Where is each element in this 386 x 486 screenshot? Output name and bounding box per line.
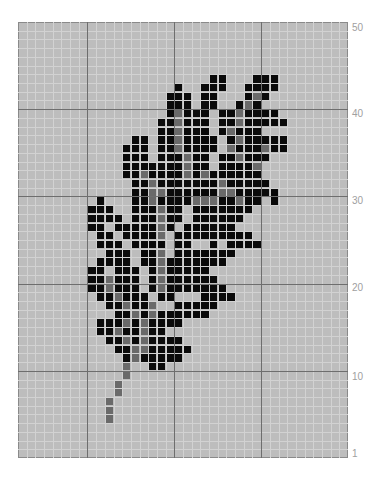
filled-cell [88,276,95,283]
filled-cell [201,224,208,231]
vein-cell [253,93,260,100]
filled-cell [245,128,252,135]
filled-cell [132,319,139,326]
filled-cell [97,206,104,213]
filled-cell [123,154,130,161]
filled-cell [158,180,165,187]
filled-cell [115,302,122,309]
filled-cell [149,163,156,170]
filled-cell [201,258,208,265]
vein-cell [201,171,208,178]
filled-cell [201,311,208,318]
filled-cell [210,101,217,108]
filled-cell [262,189,269,196]
filled-cell [271,84,278,91]
filled-cell [88,224,95,231]
filled-cell [123,311,130,318]
filled-cell [175,215,182,222]
filled-cell [167,119,174,126]
filled-cell [253,241,260,248]
filled-cell [236,215,243,222]
filled-cell [167,346,174,353]
filled-cell [106,232,113,239]
filled-cell [227,154,234,161]
filled-cell [123,328,130,335]
filled-cell [175,276,182,283]
filled-cell [236,241,243,248]
filled-cell [193,285,200,292]
vein-cell [132,311,139,318]
vein-cell [158,206,165,213]
filled-cell [227,250,234,257]
filled-cell [271,75,278,82]
vein-cell [236,154,243,161]
filled-cell [201,215,208,222]
filled-cell [193,250,200,257]
filled-cell [132,224,139,231]
filled-cell [141,224,148,231]
filled-cell [262,75,269,82]
filled-cell [158,197,165,204]
filled-cell [201,154,208,161]
filled-cell [219,128,226,135]
filled-cell [184,311,191,318]
filled-cell [193,258,200,265]
filled-cell [236,101,243,108]
vein-cell [141,337,148,344]
filled-cell [149,232,156,239]
filled-cell [123,285,130,292]
filled-cell [141,250,148,257]
filled-cell [132,136,139,143]
filled-cell [245,136,252,143]
vein-cell [149,311,156,318]
filled-cell [141,302,148,309]
filled-cell [132,328,139,335]
filled-cell [132,232,139,239]
filled-cell [132,189,139,196]
filled-cell [201,189,208,196]
filled-cell [227,215,234,222]
filled-cell [149,276,156,283]
filled-cell [175,232,182,239]
filled-cell [201,128,208,135]
vein-cell [149,180,156,187]
filled-cell [158,363,165,370]
filled-cell [193,110,200,117]
filled-cell [97,224,104,231]
filled-cell [227,171,234,178]
filled-cell [167,145,174,152]
filled-cell [97,197,104,204]
row-label-40: 40 [352,109,363,119]
filled-cell [158,293,165,300]
filled-cell [167,319,174,326]
filled-cell [262,119,269,126]
filled-cell [219,119,226,126]
filled-cell [280,119,287,126]
filled-cell [175,84,182,91]
filled-cell [175,197,182,204]
filled-cell [201,250,208,257]
vein-cell [158,215,165,222]
filled-cell [132,197,139,204]
filled-cell [149,363,156,370]
filled-cell [123,354,130,361]
filled-cell [106,258,113,265]
vein-cell [106,398,113,405]
filled-cell [219,110,226,117]
filled-cell [158,119,165,126]
filled-cell [175,163,182,170]
filled-cell [106,250,113,257]
filled-cell [167,311,174,318]
filled-cell [149,206,156,213]
filled-cell [132,206,139,213]
vein-cell [219,189,226,196]
filled-cell [158,354,165,361]
vein-cell [175,119,182,126]
filled-cell [175,101,182,108]
filled-cell [227,110,234,117]
vein-cell [123,372,130,379]
vein-cell [236,197,243,204]
filled-cell [245,197,252,204]
filled-cell [97,319,104,326]
filled-cell [97,258,104,265]
